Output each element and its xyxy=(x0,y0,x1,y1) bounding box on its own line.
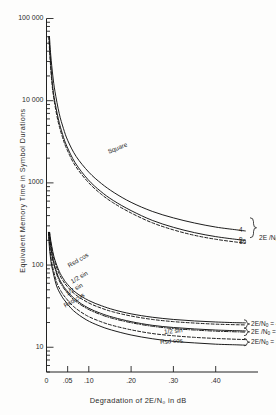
curve-square-2e-n0-16 xyxy=(49,37,245,243)
figure-container: Equivalent Memory Time in Symbol Duratio… xyxy=(0,0,276,415)
brace-mid-4 xyxy=(244,320,250,328)
y-tick-label: 1000 xyxy=(28,178,44,185)
series-end-label-4: 4 xyxy=(239,226,243,233)
x-tick-label: .05 xyxy=(61,377,75,384)
y-tick-label: 10 000 xyxy=(22,96,43,103)
curve-square-2e-n0-4 xyxy=(49,37,245,231)
x-tick-label: .20 xyxy=(124,377,138,384)
x-axis-ticks xyxy=(47,366,216,372)
y-tick-label: 100 xyxy=(32,261,44,268)
group-label-brace-upper: 2E /N0 xyxy=(259,234,276,242)
group-label-brace-mid-4: 2E/N0 = 4 xyxy=(251,320,276,328)
x-tick-label: .10 xyxy=(82,377,96,384)
x-tick-label: .30 xyxy=(166,377,180,384)
brace-upper xyxy=(250,218,257,238)
x-tick-label: 0 xyxy=(40,377,54,384)
y-tick-label: 100 000 xyxy=(18,14,43,21)
x-tick-label: .40 xyxy=(209,377,223,384)
chart-plot-area xyxy=(0,0,276,415)
series-end-label-16: 16 xyxy=(239,238,246,245)
group-label-brace-mid-9: 2E /N0 = 9 xyxy=(251,328,276,336)
y-tick-label: 10 xyxy=(36,343,44,350)
group-label-brace-mid-16: 2E/N0 = 16 xyxy=(251,338,276,346)
